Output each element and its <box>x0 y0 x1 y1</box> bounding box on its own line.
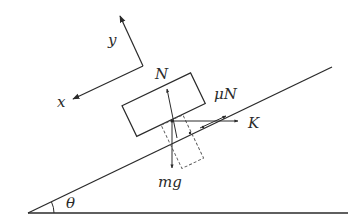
angle-arc <box>52 202 55 213</box>
weight-label: mg <box>158 175 182 190</box>
friction-arrow <box>200 116 226 128</box>
friction-label: μN <box>214 87 237 102</box>
x-axis-label: x <box>57 95 65 110</box>
weight-components-dashed <box>161 115 203 169</box>
incline-line <box>28 67 332 213</box>
x-axis-arrow <box>73 66 143 99</box>
y-axis-label: y <box>108 33 116 48</box>
coordinate-axes <box>73 16 143 99</box>
force-k-label: K <box>248 116 259 131</box>
diagram-canvas: y x N μN K mg θ <box>0 0 359 221</box>
normal-force-label: N <box>155 67 168 82</box>
angle-label: θ <box>66 196 75 211</box>
y-axis-arrow <box>120 16 143 66</box>
